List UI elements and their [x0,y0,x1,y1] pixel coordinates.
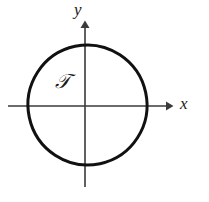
region-curve-group [17,34,158,176]
figure-canvas: y x 𝒯 [0,0,209,202]
region-label-T: 𝒯 [55,71,70,91]
x-axis-arrowhead [166,102,174,111]
y-axis-arrowhead [81,21,90,29]
region-boundary-curve [17,34,158,176]
diagram-svg [0,0,209,202]
y-axis-label: y [74,1,82,18]
x-axis-label: x [180,95,188,112]
